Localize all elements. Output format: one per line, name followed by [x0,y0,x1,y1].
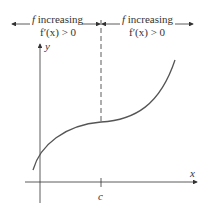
y-axis-label: y [44,40,50,52]
x-axis-label: x [189,167,195,179]
left-increasing: increasing [35,13,83,25]
left-region-line1: f increasing [32,13,84,25]
right-region-line2: f′(x) > 0 [129,26,166,39]
left-region-line2: f′(x) > 0 [40,26,77,39]
right-region-line1: f increasing [122,13,174,25]
c-tick-label: c [98,190,103,202]
right-increasing: increasing [125,13,173,25]
increasing-function-diagram: y x c f increasing f′(x) > 0 f increasin… [0,0,211,216]
function-curve [33,60,175,170]
